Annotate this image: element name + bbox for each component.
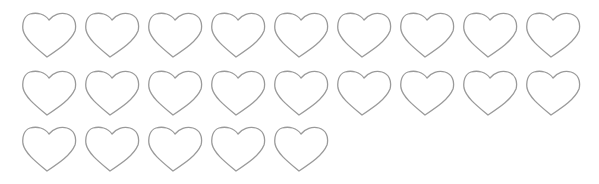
heart-icon: [273, 11, 329, 59]
heart-icon: [525, 11, 581, 59]
heart-icon: [336, 11, 392, 59]
heart-icon: [21, 125, 77, 173]
heart-icon: [84, 11, 140, 59]
heart-icon: [462, 69, 518, 117]
heart-icon: [147, 125, 203, 173]
heart-icon: [147, 11, 203, 59]
heart-icon: [399, 11, 455, 59]
heart-grid: [0, 0, 599, 184]
heart-icon: [210, 69, 266, 117]
heart-icon: [273, 125, 329, 173]
heart-icon: [462, 11, 518, 59]
heart-icon: [84, 125, 140, 173]
heart-icon: [21, 69, 77, 117]
heart-icon: [21, 11, 77, 59]
heart-icon: [525, 69, 581, 117]
heart-icon: [210, 11, 266, 59]
heart-icon: [210, 125, 266, 173]
heart-icon: [336, 69, 392, 117]
heart-icon: [399, 69, 455, 117]
heart-icon: [147, 69, 203, 117]
heart-icon: [84, 69, 140, 117]
heart-icon: [273, 69, 329, 117]
